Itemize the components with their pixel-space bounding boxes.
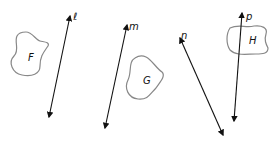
diagram-canvas [0,0,280,143]
line-l-stroke [49,16,70,117]
shape-h-outline [227,26,268,55]
shape-g-label: G [143,76,151,86]
line-n-stroke [180,38,223,135]
line-n-label: n [181,31,187,41]
shape-f-label: F [28,53,34,63]
shape-h-label: H [249,36,257,46]
diagram: ℓ m n p F G H [0,0,280,143]
line-m-label: m [129,22,139,32]
line-m-stroke [105,25,127,128]
line-p-label: p [246,12,252,22]
line-p-stroke [234,13,242,121]
line-l-label: ℓ [73,12,77,22]
